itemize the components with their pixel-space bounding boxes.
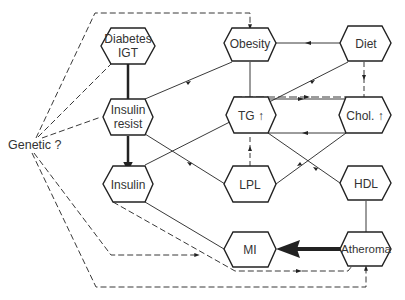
diabetes-label-line2: IGT: [104, 46, 151, 60]
mi-label: MI: [243, 243, 256, 257]
lpl-label: LPL: [239, 178, 260, 192]
diabetes-label: Diabetes IGT: [104, 32, 151, 60]
up-arrow-icon: ↑: [258, 109, 264, 123]
chol-text: Chol.: [346, 109, 374, 123]
insulin-resist-line2: resist: [111, 117, 146, 131]
tg-hdl-edge: [268, 133, 340, 183]
up-arrow-icon: ↑: [378, 109, 384, 123]
tg-text: TG: [238, 109, 255, 123]
atheroma-label: Atheroma: [341, 242, 391, 256]
diabetes-label-line1: Diabetes: [104, 32, 151, 46]
chol-label: Chol. ↑: [346, 109, 383, 123]
insulin-resist-label: Insulin resist: [111, 103, 146, 131]
lpl-chol-edge: [276, 133, 346, 184]
genetic-label: Genetic ?: [8, 138, 62, 152]
insulin-resist-line1: Insulin: [111, 103, 146, 117]
genetic-edges: [32, 13, 366, 287]
tg-label: TG ↑: [238, 109, 264, 123]
hdl-label: HDL: [354, 177, 378, 191]
diet-label: Diet: [355, 37, 376, 51]
obesity-label: Obesity: [230, 37, 271, 51]
obesity-insulinresist-edge: [145, 62, 232, 99]
insulin-label: Insulin: [111, 178, 146, 192]
